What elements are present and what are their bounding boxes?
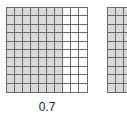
shaded-cell bbox=[116, 50, 124, 58]
shaded-cell bbox=[23, 84, 31, 92]
shaded-cell bbox=[31, 67, 39, 75]
shaded-cell bbox=[31, 58, 39, 66]
unshaded-cell bbox=[63, 33, 71, 41]
shaded-cell bbox=[7, 84, 15, 92]
shaded-cell bbox=[31, 75, 39, 83]
unshaded-cell bbox=[71, 84, 79, 92]
shaded-cell bbox=[7, 42, 15, 50]
shaded-cell bbox=[39, 8, 47, 16]
shaded-cell bbox=[47, 25, 55, 33]
shaded-cell bbox=[124, 75, 127, 83]
unshaded-cell bbox=[71, 58, 79, 66]
unshaded-cell bbox=[63, 84, 71, 92]
shaded-cell bbox=[108, 25, 116, 33]
shaded-cell bbox=[108, 84, 116, 92]
shaded-cell bbox=[31, 8, 39, 16]
unshaded-cell bbox=[79, 42, 87, 50]
unshaded-cell bbox=[79, 25, 87, 33]
hundredths-grid-0-7 bbox=[6, 7, 88, 93]
shaded-cell bbox=[47, 50, 55, 58]
shaded-cell bbox=[39, 58, 47, 66]
shaded-cell bbox=[15, 75, 23, 83]
unshaded-cell bbox=[71, 50, 79, 58]
shaded-cell bbox=[55, 8, 63, 16]
shaded-cell bbox=[55, 25, 63, 33]
unshaded-cell bbox=[71, 33, 79, 41]
shaded-cell bbox=[47, 84, 55, 92]
shaded-cell bbox=[55, 75, 63, 83]
shaded-cell bbox=[47, 16, 55, 24]
unshaded-cell bbox=[79, 8, 87, 16]
shaded-cell bbox=[15, 67, 23, 75]
unshaded-cell bbox=[79, 58, 87, 66]
shaded-cell bbox=[23, 58, 31, 66]
shaded-cell bbox=[116, 16, 124, 24]
shaded-cell bbox=[47, 67, 55, 75]
shaded-cell bbox=[124, 25, 127, 33]
shaded-cell bbox=[23, 33, 31, 41]
shaded-cell bbox=[116, 58, 124, 66]
shaded-cell bbox=[55, 58, 63, 66]
unshaded-cell bbox=[63, 75, 71, 83]
shaded-cell bbox=[47, 33, 55, 41]
shaded-cell bbox=[23, 50, 31, 58]
unshaded-cell bbox=[79, 50, 87, 58]
shaded-cell bbox=[108, 42, 116, 50]
shaded-cell bbox=[108, 75, 116, 83]
shaded-cell bbox=[47, 8, 55, 16]
shaded-cell bbox=[47, 58, 55, 66]
shaded-cell bbox=[7, 75, 15, 83]
unshaded-cell bbox=[63, 67, 71, 75]
shaded-cell bbox=[39, 50, 47, 58]
unshaded-cell bbox=[71, 8, 79, 16]
shaded-cell bbox=[108, 8, 116, 16]
shaded-cell bbox=[31, 33, 39, 41]
unshaded-cell bbox=[63, 25, 71, 33]
shaded-cell bbox=[15, 50, 23, 58]
shaded-cell bbox=[39, 75, 47, 83]
unshaded-cell bbox=[71, 16, 79, 24]
shaded-cell bbox=[124, 16, 127, 24]
shaded-cell bbox=[15, 8, 23, 16]
shaded-cell bbox=[23, 16, 31, 24]
shaded-cell bbox=[23, 42, 31, 50]
shaded-cell bbox=[124, 8, 127, 16]
unshaded-cell bbox=[71, 67, 79, 75]
shaded-cell bbox=[47, 75, 55, 83]
shaded-cell bbox=[31, 16, 39, 24]
shaded-cell bbox=[116, 84, 124, 92]
shaded-cell bbox=[31, 42, 39, 50]
shaded-cell bbox=[55, 50, 63, 58]
shaded-cell bbox=[108, 33, 116, 41]
unshaded-cell bbox=[63, 42, 71, 50]
shaded-cell bbox=[116, 33, 124, 41]
shaded-cell bbox=[116, 8, 124, 16]
shaded-cell bbox=[124, 42, 127, 50]
shaded-cell bbox=[7, 50, 15, 58]
unshaded-cell bbox=[71, 25, 79, 33]
unshaded-cell bbox=[63, 8, 71, 16]
unshaded-cell bbox=[71, 75, 79, 83]
unshaded-cell bbox=[79, 67, 87, 75]
shaded-cell bbox=[7, 58, 15, 66]
shaded-cell bbox=[15, 25, 23, 33]
shaded-cell bbox=[7, 67, 15, 75]
shaded-cell bbox=[15, 33, 23, 41]
shaded-cell bbox=[39, 67, 47, 75]
shaded-cell bbox=[39, 33, 47, 41]
shaded-cell bbox=[108, 67, 116, 75]
shaded-cell bbox=[15, 16, 23, 24]
shaded-cell bbox=[55, 42, 63, 50]
shaded-cell bbox=[15, 84, 23, 92]
unshaded-cell bbox=[79, 33, 87, 41]
shaded-cell bbox=[39, 25, 47, 33]
shaded-cell bbox=[108, 16, 116, 24]
shaded-cell bbox=[108, 58, 116, 66]
shaded-cell bbox=[23, 25, 31, 33]
shaded-cell bbox=[124, 67, 127, 75]
unshaded-cell bbox=[63, 16, 71, 24]
shaded-cell bbox=[15, 42, 23, 50]
shaded-cell bbox=[23, 8, 31, 16]
shaded-cell bbox=[7, 25, 15, 33]
shaded-cell bbox=[55, 16, 63, 24]
